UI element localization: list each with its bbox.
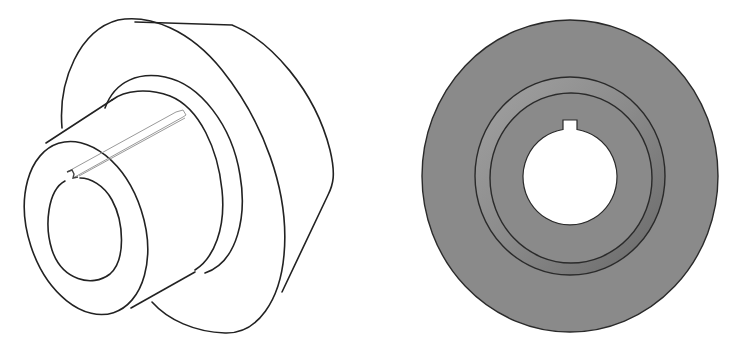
isometric-view: Isometric line view [0,0,371,342]
hub-rear-edge [112,91,223,270]
hub-front-outer [3,125,168,330]
hub-shoulder-edge [105,76,242,273]
front-view: Front shaded view [371,0,742,342]
hub-bottom-line [131,272,195,308]
hub-top-line [46,100,112,143]
bore-edge [48,178,121,281]
isometric-drawing [0,0,371,342]
flange-front-edge [62,19,285,333]
flange-back-edge [135,22,333,292]
front-drawing [371,0,742,342]
